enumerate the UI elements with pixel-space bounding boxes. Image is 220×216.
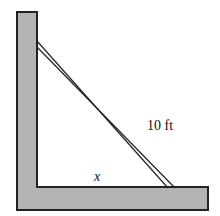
wall-and-floor bbox=[17, 12, 208, 210]
ladder bbox=[37, 41, 175, 188]
ladder-diagram: 10 ft x bbox=[0, 0, 220, 216]
ladder-length-label: 10 ft bbox=[147, 118, 173, 133]
base-distance-label: x bbox=[93, 169, 101, 184]
